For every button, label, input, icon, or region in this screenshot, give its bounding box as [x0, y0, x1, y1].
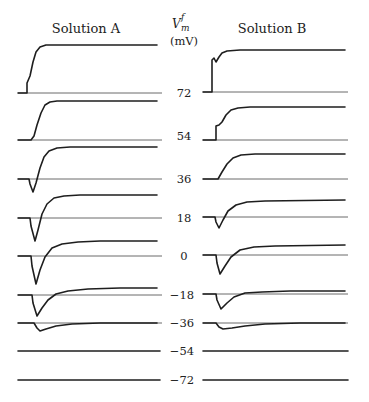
voltage-label: 72 — [177, 86, 192, 100]
axis-label: V f m (mV) — [170, 12, 198, 48]
current-trace — [18, 323, 157, 331]
panel-b-traces — [203, 50, 348, 380]
voltage-label: 0 — [180, 249, 187, 263]
current-trace — [203, 245, 345, 274]
figure-canvas: Solution A Solution B V f m (mV) 72 54 3… — [0, 0, 369, 402]
voltage-label: −72 — [170, 373, 194, 387]
axis-superscript: f — [180, 12, 186, 22]
current-trace — [18, 288, 157, 316]
voltage-label: 18 — [177, 211, 192, 225]
current-trace — [18, 147, 157, 192]
panel-b-baselines — [203, 92, 348, 323]
voltage-label: −54 — [170, 344, 194, 358]
panel-a-title: Solution A — [52, 21, 121, 36]
axis-subscript: m — [181, 23, 190, 33]
current-trace — [18, 45, 157, 93]
voltage-label: 54 — [177, 129, 192, 143]
voltage-level-labels: 72 54 36 18 0 −18 −36 −54 −72 — [170, 86, 194, 387]
voltage-label: 36 — [177, 172, 192, 186]
current-trace — [203, 154, 345, 179]
axis-unit: (mV) — [170, 34, 198, 48]
current-trace — [18, 101, 157, 140]
voltage-label: −36 — [170, 316, 194, 330]
panel-a-traces — [18, 45, 160, 380]
current-trace — [18, 241, 157, 284]
current-trace — [203, 50, 345, 92]
voltage-label: −18 — [170, 288, 194, 302]
current-trace — [203, 200, 345, 228]
current-trace — [203, 107, 345, 140]
panel-b-title: Solution B — [238, 21, 307, 36]
current-trace — [203, 323, 345, 329]
